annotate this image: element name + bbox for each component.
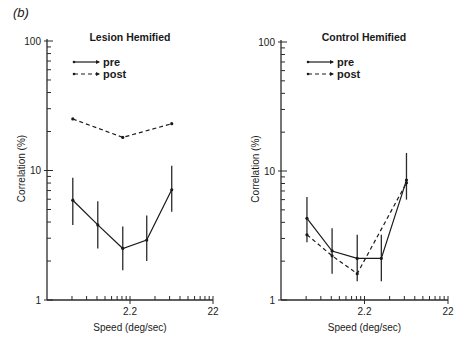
series-pre [71, 166, 173, 271]
y-axis-label: Correlation (%) [250, 135, 261, 202]
legend-arrow-pre [330, 60, 334, 64]
data-point [330, 254, 333, 257]
legend-marker-pre [307, 61, 310, 64]
series-line-post [73, 119, 172, 137]
legend-arrow-post [96, 72, 100, 76]
legend-label-pre: pre [103, 56, 120, 68]
data-point [145, 239, 148, 242]
chart-title: Control Hemified [322, 31, 407, 43]
data-point [71, 199, 74, 202]
data-point [71, 117, 74, 120]
data-point [305, 233, 308, 236]
x-axis-label: Speed (deg/sec) [93, 322, 166, 333]
data-point [405, 181, 408, 184]
data-point [356, 272, 359, 275]
legend-label-post: post [103, 68, 127, 80]
chart-title: Lesion Hemified [89, 31, 170, 43]
series-post [71, 117, 173, 139]
figure: (b) 1101002.222Speed (deg/sec)Correlatio… [0, 0, 466, 349]
legend-marker-post [73, 73, 76, 76]
legend-label-post: post [337, 68, 361, 80]
data-point [170, 122, 173, 125]
x-tick-label: 22 [207, 306, 219, 317]
legend-arrow-pre [96, 60, 100, 64]
chart-lesion-hemified: 1101002.222Speed (deg/sec)Correlation (%… [16, 31, 219, 333]
series-pre [305, 153, 408, 281]
x-tick-label: 2.2 [358, 306, 372, 317]
data-point [305, 217, 308, 220]
chart-control-hemified: 1101002.222Speed (deg/sec)Correlation (%… [250, 31, 454, 333]
y-tick-label: 100 [24, 36, 41, 47]
data-point [121, 136, 124, 139]
y-axis-label: Correlation (%) [16, 135, 27, 202]
data-point [330, 249, 333, 252]
y-tick-label: 1 [35, 295, 41, 306]
y-tick-label: 100 [258, 37, 275, 48]
y-tick-label: 10 [264, 166, 276, 177]
legend-marker-post [307, 73, 310, 76]
x-tick-label: 22 [442, 306, 454, 317]
legend-marker-pre [73, 61, 76, 64]
y-tick-label: 10 [30, 165, 42, 176]
figure-panel-label: (b) [13, 5, 29, 20]
legend: prepost [307, 56, 361, 80]
legend-arrow-post [330, 72, 334, 76]
x-axis-label: Speed (deg/sec) [328, 322, 401, 333]
data-point [96, 223, 99, 226]
x-tick-label: 2.2 [123, 306, 137, 317]
data-point [380, 257, 383, 260]
y-tick-label: 1 [269, 295, 275, 306]
data-point [170, 188, 173, 191]
legend-label-pre: pre [337, 56, 354, 68]
data-point [356, 257, 359, 260]
legend: prepost [73, 56, 127, 80]
data-point [121, 247, 124, 250]
